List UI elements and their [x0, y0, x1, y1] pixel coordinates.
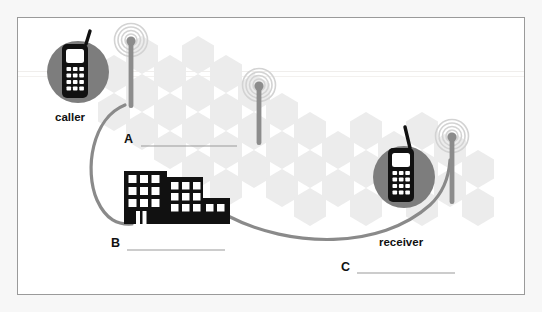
blank-label-c: C: [341, 261, 350, 274]
receiver-label: receiver: [379, 237, 423, 249]
figure-canvas: caller receiver A B C: [0, 0, 542, 312]
blank-label-b: B: [111, 237, 120, 250]
caller-label: caller: [55, 112, 85, 124]
diagram-svg: [0, 0, 542, 312]
blank-label-a: A: [124, 133, 133, 146]
